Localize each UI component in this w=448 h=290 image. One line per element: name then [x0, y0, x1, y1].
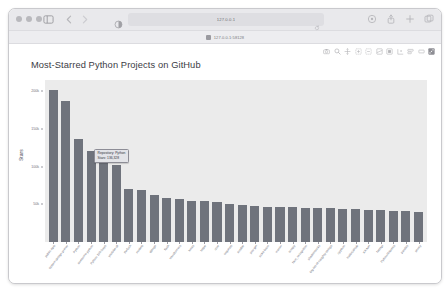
bar-cell[interactable] — [223, 80, 236, 242]
x-tick-cell: big-list-of-naughty-strings — [324, 243, 337, 284]
x-tick-cell: transformers — [173, 243, 186, 284]
bar-cell[interactable] — [412, 80, 425, 242]
zoom-button[interactable] — [36, 16, 42, 22]
bar[interactable] — [61, 101, 70, 242]
y-tick-label: 100k — [31, 165, 39, 169]
bar[interactable] — [124, 189, 133, 242]
bar[interactable] — [301, 208, 310, 242]
plot-area[interactable]: Repository: PythonStars: 136,328 — [45, 80, 427, 242]
sidebar-icon[interactable] — [43, 14, 54, 25]
minimize-button[interactable] — [26, 16, 32, 22]
address-input[interactable]: 127.0.0.1 — [128, 13, 324, 26]
x-tick-label: thefuck — [123, 244, 132, 254]
plotly-logo-icon[interactable] — [428, 48, 435, 55]
reload-icon[interactable] — [314, 17, 320, 23]
spike-lines-icon[interactable] — [397, 48, 404, 55]
x-tick-cell: scikit-learn — [261, 243, 274, 284]
bar-cell[interactable] — [349, 80, 362, 242]
bar[interactable] — [351, 209, 360, 242]
pan-icon[interactable] — [344, 48, 351, 55]
bar-cell[interactable] — [286, 80, 299, 242]
bar[interactable] — [275, 207, 284, 242]
bar[interactable] — [288, 207, 297, 242]
x-tick-cell: HelloGitHub — [349, 243, 362, 284]
bar[interactable] — [250, 206, 259, 242]
bar[interactable] — [137, 190, 146, 242]
bar-cell[interactable] — [311, 80, 324, 242]
page-content: Most-Starred Python Projects on GitHub S… — [9, 44, 441, 283]
bar[interactable] — [49, 90, 58, 242]
bar-cell[interactable] — [72, 80, 85, 242]
favicon-icon — [206, 35, 211, 40]
reader-view-icon[interactable] — [114, 15, 123, 24]
y-tick-mark — [41, 204, 43, 205]
bar[interactable] — [162, 198, 171, 242]
bar[interactable] — [225, 204, 234, 242]
zoom-out-box-icon[interactable] — [365, 48, 372, 55]
hover-compare-icon[interactable] — [407, 48, 414, 55]
bookmarks-bar: 127.0.0.1:58128 — [9, 31, 441, 44]
bookmark-item[interactable]: 127.0.0.1:58128 — [206, 35, 244, 40]
bar[interactable] — [364, 210, 373, 242]
bar[interactable] — [389, 211, 398, 242]
x-tick-label: httpie — [200, 244, 208, 252]
tab-overview-icon[interactable] — [424, 14, 434, 24]
bar[interactable] — [401, 211, 410, 242]
bar-cell[interactable] — [148, 80, 161, 242]
back-icon[interactable] — [64, 14, 75, 25]
bar-cell[interactable] — [324, 80, 337, 242]
bar[interactable] — [112, 165, 121, 242]
bar[interactable] — [338, 209, 347, 242]
autoscale-icon[interactable] — [376, 48, 383, 55]
bar[interactable] — [99, 158, 108, 242]
hover-closest-icon[interactable] — [418, 48, 425, 55]
bar-cell[interactable] — [362, 80, 375, 242]
zoom-in-box-icon[interactable] — [355, 48, 362, 55]
bar[interactable] — [414, 212, 423, 242]
bar-cell[interactable] — [249, 80, 262, 242]
y-tick-label: 150k — [31, 127, 39, 131]
bar[interactable] — [150, 195, 159, 242]
bar-cell[interactable] — [60, 80, 73, 242]
new-tab-icon[interactable] — [405, 14, 415, 24]
bar-cell[interactable] — [387, 80, 400, 242]
bar[interactable] — [187, 201, 196, 242]
camera-icon[interactable] — [323, 48, 330, 55]
close-button[interactable] — [16, 16, 22, 22]
bar-cell[interactable] — [261, 80, 274, 242]
x-tick-label: keras — [187, 244, 195, 252]
bar[interactable] — [313, 208, 322, 242]
bar[interactable] — [326, 208, 335, 242]
bar-cell[interactable] — [299, 80, 312, 242]
bar[interactable] — [212, 202, 221, 242]
bar[interactable] — [263, 207, 272, 242]
share-icon[interactable] — [386, 14, 396, 24]
bar-cell[interactable] — [135, 80, 148, 242]
browser-window: 127.0.0.1 — [8, 8, 442, 284]
bar[interactable] — [376, 210, 385, 242]
traffic-lights — [16, 16, 42, 22]
bar[interactable] — [175, 199, 184, 242]
bar[interactable] — [200, 201, 209, 242]
x-tick-label: core — [213, 244, 220, 251]
bar-cell[interactable] — [186, 80, 199, 242]
bar-cell[interactable] — [400, 80, 413, 242]
x-tick-cell: flask — [160, 243, 173, 284]
bar[interactable] — [238, 205, 247, 242]
forward-icon[interactable] — [79, 14, 90, 25]
zoom-icon[interactable] — [334, 48, 341, 55]
bar-cell[interactable] — [236, 80, 249, 242]
bar-cell[interactable] — [160, 80, 173, 242]
bar-cell[interactable] — [211, 80, 224, 242]
bar-cell[interactable] — [374, 80, 387, 242]
bar-cell[interactable] — [173, 80, 186, 242]
bar-cell[interactable] — [337, 80, 350, 242]
x-axis-labels: public-apissystem-design-primerPythonawe… — [45, 243, 427, 284]
bar[interactable] — [74, 139, 83, 242]
bar-cell[interactable] — [47, 80, 60, 242]
puzzle-icon[interactable] — [367, 14, 377, 24]
bar-cell[interactable] — [274, 80, 287, 242]
reset-axes-icon[interactable] — [386, 48, 393, 55]
bar[interactable] — [87, 151, 96, 242]
bar-cell[interactable] — [198, 80, 211, 242]
